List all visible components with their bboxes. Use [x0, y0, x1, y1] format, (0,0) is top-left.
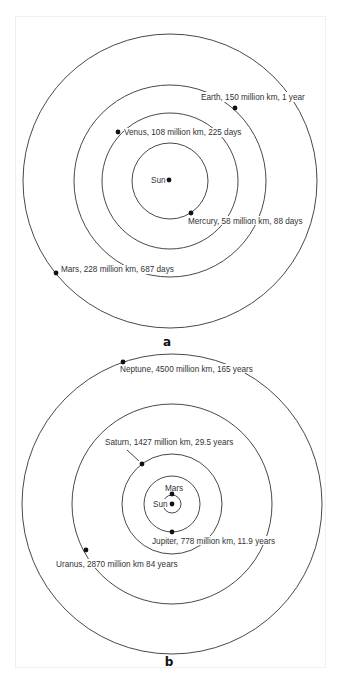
label-mars: Mars, 228 million km, 687 days [61, 265, 174, 274]
label-mars: Mars [165, 484, 183, 493]
caption-a: a [163, 335, 171, 349]
planet-dot-saturn [140, 462, 145, 467]
planet-dot-mars [54, 271, 59, 276]
sun-dot [167, 178, 172, 183]
label-saturn: Saturn, 1427 million km, 29.5 years [105, 438, 233, 447]
saturn-pointer-arrow [127, 450, 139, 461]
planet-dot-venus [116, 130, 121, 135]
planet-dot-earth [233, 106, 238, 111]
caption-b: b [165, 655, 174, 669]
label-jupiter: Jupiter, 778 million km, 11.9 years [152, 537, 275, 546]
label-mercury: Mercury, 58 million km, 88 days [188, 217, 303, 226]
solar-system-figure: Sun Mercury, 58 million km, 88 days Venu… [0, 0, 340, 678]
label-neptune: Neptune, 4500 million km, 165 years [120, 365, 253, 374]
planet-dot-jupiter [170, 530, 175, 535]
label-uranus: Uranus, 2870 million km 84 years [56, 560, 178, 569]
sun-label: Sun [151, 176, 166, 185]
sun-dot [170, 502, 175, 507]
label-venus: Venus, 108 million km, 225 days [124, 128, 241, 137]
label-earth: Earth, 150 million km, 1 year [201, 93, 305, 102]
planet-dot-uranus [84, 548, 89, 553]
planet-dot-mercury [189, 211, 194, 216]
planet-dot-neptune [121, 360, 126, 365]
diagram-b: Sun Mars Jupiter, 778 million km, 11.9 y… [22, 354, 322, 669]
diagram-a: Sun Mercury, 58 million km, 88 days Venu… [23, 34, 317, 349]
sun-label: Sun [153, 500, 168, 509]
